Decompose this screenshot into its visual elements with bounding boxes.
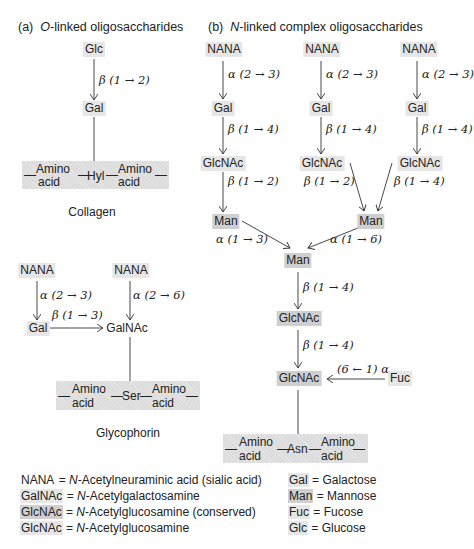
chain-left-top: Amino	[72, 382, 106, 396]
legend-eq: =	[313, 489, 327, 503]
node-gal-1: Gal	[212, 101, 235, 116]
panel-b-title: (b) N-linked complex oligosaccharides	[208, 20, 423, 34]
node-galnac: GalNAc	[104, 321, 149, 336]
linkage-1c: β (1 → 2)	[228, 174, 279, 188]
asn-peptide-chain: — Amino acid — Asn — Amino acid —	[223, 434, 368, 463]
dash: —	[155, 168, 167, 182]
node-gal: Gal	[83, 101, 106, 116]
legend-row-glcnac-conserved: GlcNAc = N-Acetylglucosamine (conserved)	[20, 505, 256, 520]
dash: —	[353, 442, 365, 456]
legend-eq: =	[309, 473, 323, 487]
linkage-text: α (2 → 3)	[228, 67, 280, 81]
legend-eq: =	[308, 521, 322, 535]
node-man-core: Man	[284, 253, 311, 268]
node-glcnac-3: GlcNAc	[398, 156, 443, 171]
legend-desc: Mannose	[327, 489, 376, 503]
caption-glycophorin: Glycophorin	[96, 426, 160, 440]
linkage-text: β (1 → 4)	[228, 122, 279, 136]
glycophorin-peptide-chain: — Amino acid — Ser — Amino acid —	[56, 381, 200, 410]
panel-a-title: (a) O-linked oligosaccharides	[18, 20, 183, 34]
node-glc: Glc	[83, 42, 105, 57]
linkage-man-right: α (1 → 6)	[330, 232, 382, 246]
legend-eq: =	[63, 489, 77, 503]
linkage-man-left: α (1 → 3)	[216, 232, 268, 246]
linkage-text: β (1 → 4)	[394, 174, 445, 188]
chain-left-top: Amino	[239, 435, 273, 449]
linkage-2c: β (1 → 2)	[304, 174, 355, 188]
linkage-1a: α (2 → 3)	[228, 67, 280, 81]
legend-abbr: Glc	[288, 521, 308, 535]
legend-abbr: GlcNAc	[20, 505, 63, 519]
chain-right-bottom: acid	[152, 396, 174, 410]
chain-right-top: Amino	[321, 435, 355, 449]
linkage-text: β (1 → 2)	[304, 174, 355, 188]
linkage-text: α (2 → 6)	[133, 288, 185, 302]
chain-left-top: Amino	[36, 162, 70, 176]
linkage-text: β (1 → 4)	[422, 122, 473, 136]
panel-b-prefix: (b)	[208, 20, 223, 34]
panel-a-prefix: (a)	[18, 20, 33, 34]
legend-abbr: Man	[288, 489, 313, 503]
linkage-text: α (2 → 3)	[40, 288, 92, 302]
legend-eq: =	[55, 473, 69, 487]
legend-abbr: NANA	[20, 473, 55, 487]
legend-abbr: Gal	[288, 473, 309, 487]
linkage-core-2: β (1 → 4)	[303, 338, 354, 352]
legend-row-fuc: Fuc = Fucose	[288, 505, 363, 520]
chain-right-top: Amino	[118, 162, 152, 176]
legend-desc: -Acetylgalactosamine	[86, 489, 200, 503]
chain-center-asn: Asn	[287, 442, 308, 456]
legend-row-man: Man = Mannose	[288, 489, 376, 504]
dash: —	[24, 168, 36, 182]
panel-b-title-italic: N	[230, 20, 239, 34]
chain-left-bottom: acid	[38, 175, 60, 189]
legend-desc: -Acetylglucosamine (conserved)	[85, 505, 256, 519]
linkage-core-1: β (1 → 4)	[303, 280, 354, 294]
chain-right-top: Amino	[152, 382, 186, 396]
node-gal-2: Gal	[310, 101, 333, 116]
node-glcnac-1: GlcNAc	[201, 156, 246, 171]
legend-abbr: Fuc	[288, 505, 310, 519]
legend-desc: Galactose	[322, 473, 376, 487]
linkage-text: (6 ← 1) α	[337, 362, 389, 376]
linkage-3c: β (1 → 4)	[394, 174, 445, 188]
node-nana-right: NANA	[112, 263, 149, 278]
legend-desc: -Acetylneuraminic acid (sialic acid)	[78, 473, 262, 487]
dash: —	[140, 389, 152, 403]
linkage-text: α (1 → 3)	[216, 232, 268, 246]
legend-row-galnac: GalNAc = N-Acetylgalactosamine	[20, 489, 200, 504]
linkage-text: β (1 → 4)	[326, 122, 377, 136]
dash: —	[186, 389, 198, 403]
legend-desc: -Acetylglucosamine	[85, 521, 189, 535]
chain-left-bottom: acid	[72, 396, 94, 410]
linkage-fuc: (6 ← 1) α	[337, 362, 389, 376]
caption-collagen: Collagen	[68, 205, 115, 219]
chain-right-bottom: acid	[321, 449, 343, 463]
chain-center-hyl: Hyl	[87, 169, 104, 183]
node-fuc: Fuc	[388, 371, 412, 386]
linkage-text: α (2 → 3)	[422, 67, 474, 81]
linkage-2a: α (2 → 3)	[326, 67, 378, 81]
legend-italic: N	[77, 489, 86, 503]
panel-a-title-rest: -linked oligosaccharides	[50, 20, 183, 34]
legend-italic: N	[76, 505, 85, 519]
dash: —	[58, 389, 70, 403]
legend-desc: Glucose	[322, 521, 366, 535]
legend-row-glcnac: GlcNAc = N-Acetylglucosamine	[20, 521, 189, 536]
node-nana-1: NANA	[205, 42, 242, 57]
panel-b-title-rest: -linked complex oligosaccharides	[239, 20, 422, 34]
linkage-text: α (1 → 6)	[330, 232, 382, 246]
linkage-text: β (1 → 3)	[52, 308, 103, 322]
linkage-3a: α (2 → 3)	[422, 67, 474, 81]
legend-eq: =	[63, 521, 77, 535]
node-man-left: Man	[212, 214, 239, 229]
node-nana-2: NANA	[303, 42, 340, 57]
legend-eq: =	[63, 505, 77, 519]
legend-italic: N	[76, 521, 85, 535]
chain-left-bottom: acid	[239, 449, 261, 463]
linkage-1b: β (1 → 4)	[228, 122, 279, 136]
linkage-2b: β (1 → 4)	[326, 122, 377, 136]
node-gal: Gal	[27, 321, 50, 336]
node-gal-3: Gal	[406, 101, 429, 116]
